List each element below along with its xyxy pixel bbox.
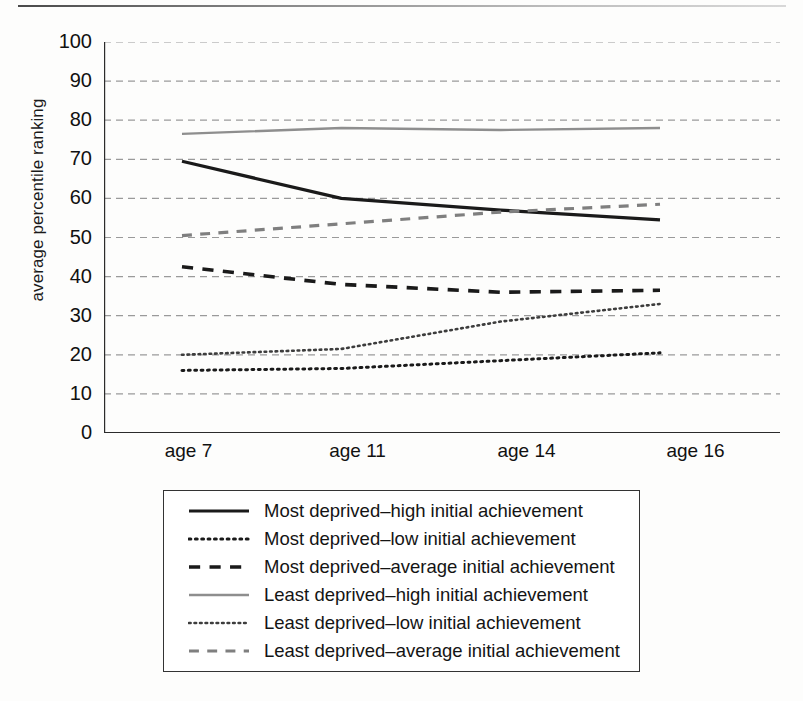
legend-label: Most deprived–high initial achievement <box>264 500 583 522</box>
x-axis-tick-labels: age 7age 11age 14age 16 <box>0 440 803 474</box>
y-axis-tick-label: 100 <box>46 31 92 51</box>
x-axis-tick-label: age 11 <box>329 440 386 462</box>
y-axis-tick-label: 40 <box>46 266 92 286</box>
line-chart: average percentile ranking 1009080706050… <box>0 0 803 480</box>
y-axis-tick-label: 90 <box>46 70 92 90</box>
y-axis-tick-label: 60 <box>46 187 92 207</box>
y-axis-tick-label: 10 <box>46 383 92 403</box>
x-axis-tick-label: age 14 <box>497 440 555 462</box>
series-line <box>182 304 660 355</box>
y-axis-tick-labels: 1009080706050403020100 <box>40 0 92 480</box>
series-line <box>182 161 660 220</box>
legend-item[interactable]: Least deprived–high initial achievement <box>164 581 639 609</box>
legend-item[interactable]: Least deprived–average initial achieveme… <box>164 637 639 665</box>
series-line <box>182 128 660 134</box>
y-axis-tick-label: 30 <box>46 305 92 325</box>
chart-legend: Most deprived–high initial achievementMo… <box>163 490 640 672</box>
series-line <box>182 353 660 371</box>
y-axis-tick-label: 0 <box>46 422 92 442</box>
plot-area <box>104 42 780 433</box>
legend-line-icon <box>188 588 250 602</box>
legend-label: Least deprived–average initial achieveme… <box>264 640 620 662</box>
legend-line-icon <box>188 504 250 518</box>
legend-item[interactable]: Most deprived–average initial achievemen… <box>164 553 639 581</box>
legend-item[interactable]: Most deprived–high initial achievement <box>164 497 639 525</box>
y-axis-tick-label: 70 <box>46 148 92 168</box>
series-line <box>182 267 660 292</box>
series-line <box>182 204 660 235</box>
legend-item[interactable]: Least deprived–low initial achievement <box>164 609 639 637</box>
legend-label: Least deprived–low initial achievement <box>264 612 581 634</box>
legend-line-icon <box>188 616 250 630</box>
legend-item[interactable]: Most deprived–low initial achievement <box>164 525 639 553</box>
legend-line-icon <box>188 560 250 574</box>
legend-label: Most deprived–low initial achievement <box>264 528 576 550</box>
legend-line-icon <box>188 644 250 658</box>
legend-label: Least deprived–high initial achievement <box>264 584 588 606</box>
y-axis-tick-label: 20 <box>46 344 92 364</box>
legend-line-icon <box>188 532 250 546</box>
x-axis-tick-label: age 16 <box>666 440 724 462</box>
x-axis-tick-label: age 7 <box>165 440 213 462</box>
legend-label: Most deprived–average initial achievemen… <box>264 556 615 578</box>
y-axis-tick-label: 80 <box>46 109 92 129</box>
y-axis-tick-label: 50 <box>46 227 92 247</box>
